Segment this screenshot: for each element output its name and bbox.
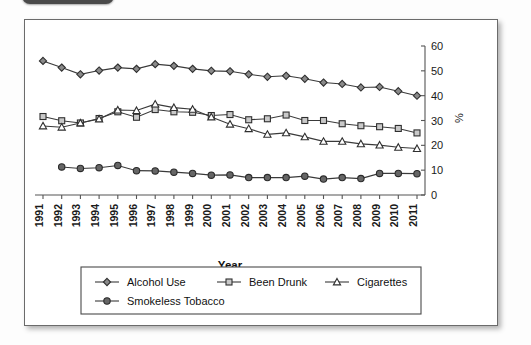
x-tick-label: 2010 bbox=[388, 204, 400, 228]
marker-filled-circle bbox=[339, 174, 345, 180]
marker-filled-circle bbox=[96, 164, 102, 170]
marker-open-square bbox=[246, 117, 252, 123]
marker-filled-diamond bbox=[114, 64, 121, 71]
x-tick-label: 1991 bbox=[33, 204, 45, 228]
page-background: 0102030405060%19911992199319941995199619… bbox=[0, 0, 531, 345]
y-tick-label: 60 bbox=[431, 40, 443, 52]
marker-filled-circle bbox=[115, 162, 121, 168]
legend-item-label: Cigarettes bbox=[357, 276, 408, 288]
marker-filled-diamond bbox=[133, 65, 140, 72]
marker-filled-diamond bbox=[357, 84, 364, 91]
line-chart: 0102030405060%19911992199319941995199619… bbox=[25, 20, 499, 327]
marker-filled-diamond bbox=[189, 65, 196, 72]
marker-filled-circle bbox=[104, 298, 110, 304]
marker-filled-diamond bbox=[320, 79, 327, 86]
x-tick-label: 2009 bbox=[370, 204, 382, 228]
marker-open-square bbox=[302, 118, 308, 124]
y-axis: 0102030405060% bbox=[421, 40, 465, 201]
x-tick-label: 2003 bbox=[257, 204, 269, 228]
marker-filled-circle bbox=[189, 170, 195, 176]
marker-filled-diamond bbox=[413, 92, 420, 99]
x-tick-label: 2007 bbox=[332, 204, 344, 228]
x-tick-label: 1994 bbox=[89, 204, 101, 228]
x-tick-label: 1999 bbox=[183, 204, 195, 228]
x-tick-label: 2006 bbox=[314, 204, 326, 228]
marker-filled-diamond bbox=[226, 68, 233, 75]
series-smokeless-tobacco bbox=[59, 162, 421, 182]
marker-filled-diamond bbox=[395, 88, 402, 95]
marker-open-triangle bbox=[283, 129, 290, 135]
marker-filled-diamond bbox=[283, 72, 290, 79]
marker-open-triangle bbox=[226, 121, 233, 127]
marker-open-square bbox=[339, 121, 345, 127]
y-tick-label: 40 bbox=[431, 90, 443, 102]
marker-filled-circle bbox=[246, 174, 252, 180]
x-tick-label: 1997 bbox=[145, 204, 157, 228]
chart-legend: Alcohol UseBeen DrunkCigarettesSmokeless… bbox=[81, 267, 421, 314]
legend-item-label: Been Drunk bbox=[249, 276, 308, 288]
marker-open-square bbox=[226, 279, 232, 285]
marker-open-square bbox=[264, 116, 270, 122]
marker-filled-circle bbox=[133, 167, 139, 173]
marker-open-square bbox=[321, 118, 327, 124]
marker-open-square bbox=[40, 114, 46, 120]
x-tick-label: 2001 bbox=[220, 204, 232, 228]
marker-filled-diamond bbox=[208, 67, 215, 74]
marker-filled-circle bbox=[376, 170, 382, 176]
marker-filled-diamond bbox=[77, 71, 84, 78]
series-alcohol-use bbox=[39, 57, 420, 99]
y-axis-title: % bbox=[453, 113, 465, 123]
marker-filled-diamond bbox=[58, 64, 65, 71]
marker-filled-circle bbox=[320, 176, 326, 182]
marker-open-square bbox=[358, 123, 364, 129]
x-tick-label: 2000 bbox=[201, 204, 213, 228]
y-tick-label: 10 bbox=[431, 164, 443, 176]
marker-filled-diamond bbox=[96, 67, 103, 74]
marker-filled-diamond bbox=[170, 62, 177, 69]
marker-filled-circle bbox=[77, 165, 83, 171]
x-tick-label: 2011 bbox=[407, 204, 419, 227]
marker-open-square bbox=[414, 130, 420, 136]
marker-filled-circle bbox=[358, 175, 364, 181]
y-tick-label: 0 bbox=[431, 189, 437, 201]
legend-item-label: Alcohol Use bbox=[127, 276, 186, 288]
marker-filled-diamond bbox=[264, 73, 271, 80]
y-tick-label: 20 bbox=[431, 139, 443, 151]
x-tick-label: 2005 bbox=[295, 204, 307, 228]
y-tick-label: 50 bbox=[431, 65, 443, 77]
legend-item-label: Smokeless Tobacco bbox=[127, 295, 225, 307]
marker-filled-circle bbox=[395, 170, 401, 176]
marker-filled-diamond bbox=[245, 71, 252, 78]
marker-open-square bbox=[395, 125, 401, 131]
marker-filled-circle bbox=[227, 172, 233, 178]
marker-filled-diamond bbox=[301, 75, 308, 82]
marker-open-square bbox=[377, 124, 383, 130]
x-tick-label: 1993 bbox=[70, 204, 82, 228]
marker-open-square bbox=[134, 114, 140, 120]
window-tab-handle[interactable] bbox=[22, 0, 114, 4]
x-tick-label: 1998 bbox=[164, 204, 176, 228]
x-tick-label: 2008 bbox=[351, 204, 363, 228]
x-tick-label: 2002 bbox=[239, 204, 251, 228]
marker-open-triangle bbox=[152, 101, 159, 107]
marker-filled-circle bbox=[152, 168, 158, 174]
marker-filled-diamond bbox=[376, 83, 383, 90]
marker-open-square bbox=[227, 112, 233, 118]
marker-filled-circle bbox=[171, 169, 177, 175]
figure-card: 0102030405060%19911992199319941995199619… bbox=[24, 19, 498, 326]
x-tick-label: 1995 bbox=[108, 204, 120, 228]
marker-filled-circle bbox=[302, 173, 308, 179]
chart-plot-area: 0102030405060%19911992199319941995199619… bbox=[25, 20, 499, 327]
marker-filled-circle bbox=[264, 174, 270, 180]
marker-filled-circle bbox=[414, 170, 420, 176]
x-axis: 1991199219931994199519961997199819992000… bbox=[33, 195, 425, 271]
x-tick-label: 1992 bbox=[52, 204, 64, 228]
marker-open-square bbox=[283, 112, 289, 118]
x-tick-label: 2004 bbox=[276, 204, 288, 228]
x-tick-label: 1996 bbox=[127, 204, 139, 228]
marker-filled-circle bbox=[283, 174, 289, 180]
marker-filled-circle bbox=[208, 172, 214, 178]
marker-filled-diamond bbox=[152, 61, 159, 68]
marker-filled-circle bbox=[59, 164, 65, 170]
marker-filled-diamond bbox=[339, 80, 346, 87]
